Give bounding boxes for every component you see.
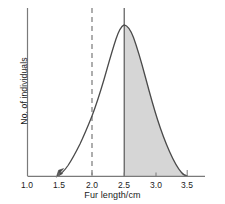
x-tick-label-4: 2.5 <box>111 180 137 190</box>
x-tick-label-6: 3.5 <box>174 180 200 190</box>
y-axis-title: No. of individuals <box>19 26 29 156</box>
x-axis-title: Fur length/cm <box>0 190 225 200</box>
x-tick-label-5: 3.0 <box>143 180 169 190</box>
fur-length-distribution-chart: 1.0 1.5 2.0 2.5 3.0 3.5 Fur length/cm No… <box>0 0 225 204</box>
chart-canvas <box>0 0 225 204</box>
x-tick-label-2: 1.5 <box>46 180 72 190</box>
shaded-area-region <box>124 25 187 176</box>
x-tick-label-3: 2.0 <box>79 180 105 190</box>
x-tick-label-1: 1.0 <box>14 180 40 190</box>
